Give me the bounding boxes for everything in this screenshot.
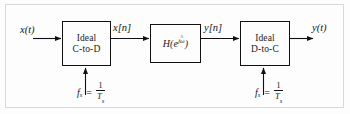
filter-paren-close: ) bbox=[185, 38, 188, 49]
period-subscript-left: s bbox=[102, 97, 105, 104]
filter-h-symbol: H bbox=[163, 38, 170, 49]
filtered-output-sequence-label: y[n] bbox=[204, 22, 222, 33]
ctod-label-line2: C-to-D bbox=[73, 44, 101, 54]
input-signal-label: x(t) bbox=[20, 24, 35, 35]
period-symbol-left: T bbox=[97, 91, 102, 101]
fraction-denominator-right: Ts bbox=[274, 91, 283, 103]
discrete-filter-block: H(ej^ω) bbox=[150, 24, 201, 63]
dtoc-label-line2: D-to-C bbox=[251, 44, 279, 54]
block-diagram-figure: Ideal C-to-D H(ej^ω) Ideal D-to-C x(t) x… bbox=[0, 0, 350, 114]
output-signal-label: y(t) bbox=[312, 22, 327, 33]
fs-equals-right: = bbox=[264, 87, 270, 98]
period-subscript-right: s bbox=[280, 97, 283, 104]
omega-hat-accent: ^ bbox=[181, 34, 184, 40]
fraction-denominator-left: Ts bbox=[96, 91, 105, 103]
filter-exponent: j^ω bbox=[178, 37, 185, 44]
fraction-numerator-left: 1 bbox=[98, 82, 104, 91]
sampling-period-fraction-left: 1 Ts bbox=[96, 82, 105, 103]
filter-transfer-function-label: H(ej^ω) bbox=[163, 37, 189, 50]
period-symbol-right: T bbox=[275, 91, 280, 101]
sampling-rate-label-right: fs = 1 Ts bbox=[255, 82, 283, 103]
dtoc-label-line1: Ideal bbox=[255, 33, 275, 43]
sampling-period-fraction-right: 1 Ts bbox=[274, 82, 283, 103]
fraction-numerator-right: 1 bbox=[276, 82, 282, 91]
sampling-rate-label-left: fs = 1 Ts bbox=[77, 82, 105, 103]
sampled-input-sequence-label: x[n] bbox=[113, 22, 131, 33]
fs-subscript-right: s bbox=[258, 91, 261, 98]
ctod-label-line1: Ideal bbox=[77, 33, 97, 43]
ideal-d-to-c-block: Ideal D-to-C bbox=[240, 21, 290, 66]
fs-subscript-left: s bbox=[80, 91, 83, 98]
fs-equals-left: = bbox=[86, 87, 92, 98]
filter-exponent-omega-hat: ^ω bbox=[180, 37, 185, 44]
ideal-c-to-d-block: Ideal C-to-D bbox=[62, 21, 111, 66]
